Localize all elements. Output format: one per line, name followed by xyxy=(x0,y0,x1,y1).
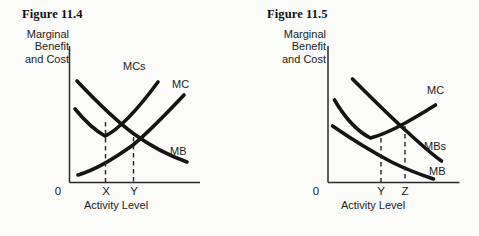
curve-label-mb: MB xyxy=(170,145,187,157)
curve-mc xyxy=(78,95,184,175)
tick-label-y: Y xyxy=(127,185,141,197)
curve-label-mc: MC xyxy=(427,84,444,96)
figure-panel-11-4: Figure 11.4 Marginal Benefit and Cost MC… xyxy=(0,0,240,236)
curve-mc xyxy=(335,100,436,138)
tick-label-z: Z xyxy=(398,185,412,197)
figure-panel-11-5: Figure 11.5 Marginal Benefit and Cost MC… xyxy=(239,0,479,236)
tick-label-x: X xyxy=(99,185,113,197)
curve-label-mc: MC xyxy=(172,78,189,90)
x-axis-label: Activity Level xyxy=(61,199,171,211)
origin-label: 0 xyxy=(309,185,323,197)
curve-label-mbs: MBs xyxy=(424,140,446,152)
x-axis-label: Activity Level xyxy=(318,199,428,211)
origin-label: 0 xyxy=(51,185,65,197)
tick-label-y: Y xyxy=(374,185,388,197)
curve-label-mcs: MCs xyxy=(123,60,146,72)
curve-label-mb: MB xyxy=(429,165,446,177)
